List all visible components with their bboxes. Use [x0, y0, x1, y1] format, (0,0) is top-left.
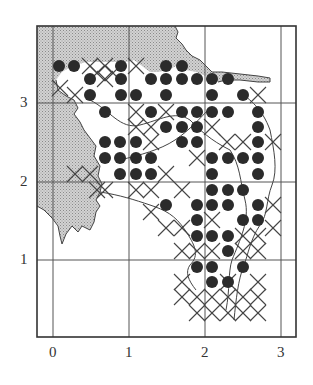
- record-cross: [250, 289, 266, 305]
- record-dot: [176, 106, 188, 118]
- record-dot: [176, 73, 188, 85]
- record-dot: [160, 89, 172, 101]
- y-tick-label: 2: [20, 174, 28, 189]
- record-cross: [250, 87, 266, 103]
- record-dot: [84, 73, 96, 85]
- record-dot: [222, 73, 234, 85]
- record-cross: [174, 243, 190, 259]
- record-dot: [176, 136, 188, 148]
- record-dot: [191, 230, 203, 242]
- record-dot: [237, 261, 249, 273]
- record-dot: [176, 60, 188, 72]
- record-dot: [114, 152, 126, 164]
- record-cross: [250, 274, 266, 290]
- record-cross: [189, 305, 205, 321]
- record-dot: [191, 106, 203, 118]
- record-cross: [174, 274, 190, 290]
- record-cross: [174, 220, 190, 236]
- record-dot: [206, 184, 218, 196]
- record-dot: [191, 121, 203, 133]
- record-dot: [191, 73, 203, 85]
- record-dot: [99, 136, 111, 148]
- record-cross: [97, 71, 113, 87]
- record-cross: [189, 150, 205, 166]
- x-tick-label: 3: [277, 345, 285, 360]
- record-dot: [115, 73, 127, 85]
- record-cross: [235, 305, 251, 321]
- record-dot: [206, 152, 218, 164]
- record-cross: [250, 228, 266, 244]
- record-dot: [191, 199, 203, 211]
- record-dot: [252, 214, 264, 226]
- record-dot: [130, 136, 142, 148]
- record-cross: [204, 119, 220, 135]
- record-dot: [206, 199, 218, 211]
- record-dot: [252, 106, 264, 118]
- record-cross: [128, 104, 144, 120]
- record-dot: [145, 168, 157, 180]
- record-cross: [250, 305, 266, 321]
- record-dot: [252, 199, 264, 211]
- record-dot: [252, 121, 264, 133]
- record-dot: [176, 121, 188, 133]
- record-cross: [158, 220, 174, 236]
- record-cross: [189, 243, 205, 259]
- grid: [37, 26, 296, 337]
- record-cross: [143, 134, 159, 150]
- record-dot: [222, 106, 234, 118]
- record-dot: [222, 245, 234, 257]
- record-dot: [206, 89, 218, 101]
- record-dot: [206, 106, 218, 118]
- record-dot: [191, 261, 203, 273]
- record-dot: [252, 152, 264, 164]
- record-dot: [53, 60, 65, 72]
- y-tick-label: 1: [20, 252, 28, 267]
- record-cross: [250, 243, 266, 259]
- x-tick-label: 0: [49, 345, 57, 360]
- record-cross: [158, 166, 174, 182]
- record-cross: [204, 289, 220, 305]
- record-dot: [222, 199, 234, 211]
- record-dot: [130, 152, 142, 164]
- record-dot: [145, 106, 157, 118]
- record-cross: [219, 134, 235, 150]
- record-dot: [237, 184, 249, 196]
- record-dot: [222, 152, 234, 164]
- record-dot: [99, 106, 111, 118]
- record-dot: [206, 168, 218, 180]
- record-dot: [99, 152, 111, 164]
- record-dot: [206, 230, 218, 242]
- record-cross: [235, 134, 251, 150]
- record-dot: [206, 261, 218, 273]
- record-cross: [189, 289, 205, 305]
- record-cross: [204, 212, 220, 228]
- record-dot: [191, 136, 203, 148]
- record-cross: [174, 182, 190, 198]
- record-dot: [84, 89, 96, 101]
- boundary-line-west: [100, 192, 196, 290]
- record-cross: [143, 182, 159, 198]
- record-cross: [128, 182, 144, 198]
- record-dot: [206, 276, 218, 288]
- x-tick-label: 1: [125, 345, 133, 360]
- record-cross: [265, 220, 281, 236]
- record-dot: [145, 152, 157, 164]
- record-dot: [237, 152, 249, 164]
- record-cross: [220, 305, 236, 321]
- record-dot: [130, 168, 142, 180]
- record-dot: [115, 60, 127, 72]
- record-dot: [160, 60, 172, 72]
- record-dot: [222, 276, 234, 288]
- record-cross: [128, 119, 144, 135]
- record-dot: [191, 214, 203, 226]
- record-dot: [252, 136, 264, 148]
- distribution-map: [0, 0, 313, 385]
- record-dot: [222, 230, 234, 242]
- record-dot: [145, 73, 157, 85]
- record-dot: [237, 214, 249, 226]
- record-dot: [252, 168, 264, 180]
- record-dot: [160, 73, 172, 85]
- y-tick-label: 3: [20, 95, 28, 110]
- record-cross: [143, 204, 159, 220]
- record-cross: [204, 243, 220, 259]
